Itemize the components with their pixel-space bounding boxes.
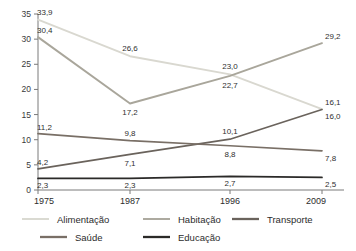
data-label: 16,0: [325, 112, 341, 121]
data-label: 30,4: [37, 26, 53, 35]
data-label: 8,8: [224, 150, 236, 159]
data-label: 23,0: [222, 62, 238, 71]
data-label: 7,8: [325, 154, 337, 163]
y-tick-label: 20: [22, 84, 32, 94]
chart-canvas: 05101520253035 1975198719962009 33,926,6…: [0, 0, 356, 251]
data-label: 2,3: [124, 181, 136, 190]
data-label: 17,2: [122, 108, 138, 117]
data-label: 2,3: [37, 181, 49, 190]
y-tick-label: 25: [22, 59, 32, 69]
y-axis: 05101520253035: [22, 9, 38, 195]
legend-label-3: Saúde: [75, 232, 102, 243]
data-label: 33,9: [37, 8, 53, 17]
legend-label-4: Educação: [178, 232, 220, 243]
y-tick-label: 35: [22, 9, 32, 19]
x-tick-label: 2009: [306, 196, 326, 206]
series-line-2: [38, 110, 322, 169]
y-tick-label: 30: [22, 34, 32, 44]
data-label: 9,8: [124, 129, 136, 138]
line-chart: 05101520253035 1975198719962009 33,926,6…: [0, 0, 356, 251]
data-label: 11,2: [37, 123, 53, 132]
legend-label-1: Habitação: [178, 214, 221, 225]
series-line-4: [38, 176, 322, 178]
series-lines: [38, 20, 322, 179]
y-tick-label: 0: [26, 185, 31, 195]
y-tick-label: 15: [22, 110, 32, 120]
x-tick-label: 1996: [220, 196, 240, 206]
x-tick-label: 1987: [120, 196, 140, 206]
data-label: 7,1: [124, 159, 136, 168]
series-line-0: [38, 20, 322, 110]
legend-label-0: Alimentação: [57, 214, 109, 225]
data-label: 29,2: [325, 32, 341, 41]
y-tick-label: 5: [26, 160, 31, 170]
data-label: 4,2: [37, 158, 49, 167]
data-label: 22,7: [222, 81, 238, 90]
data-label: 26,6: [122, 44, 138, 53]
data-label: 2,7: [224, 179, 236, 188]
data-label: 10,1: [222, 127, 238, 136]
series-line-3: [38, 134, 322, 151]
x-axis: 1975198719962009: [34, 190, 344, 206]
x-tick-label: 1975: [34, 196, 54, 206]
chart-legend: AlimentaçãoHabitaçãoTransporteSaúdeEduca…: [22, 214, 313, 243]
y-tick-label: 10: [22, 135, 32, 145]
data-label: 2,5: [325, 180, 337, 189]
data-label: 16,1: [325, 98, 341, 107]
legend-label-2: Transporte: [267, 214, 313, 225]
